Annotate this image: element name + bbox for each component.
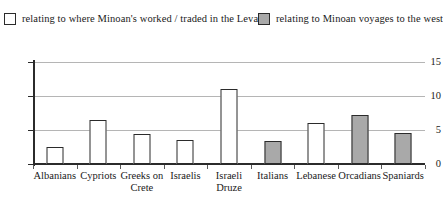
x-tick: [77, 165, 78, 169]
chart-legend: relating to where Minoan's worked / trad…: [0, 13, 441, 35]
bars-layer: [33, 62, 425, 164]
bar[interactable]: [220, 89, 237, 164]
bar[interactable]: [90, 120, 107, 164]
bar-slot: [33, 62, 77, 164]
x-tick: [251, 165, 252, 169]
bar[interactable]: [395, 133, 412, 164]
x-tick: [381, 165, 382, 169]
x-axis-label-line: Spaniards: [375, 170, 431, 182]
bar-slot: [294, 62, 338, 164]
legend-entry-west: relating to Minoan voyages to the west: [258, 13, 443, 25]
bar-slot: [120, 62, 164, 164]
bar[interactable]: [264, 141, 281, 164]
bar-slot: [338, 62, 382, 164]
bar-slot: [381, 62, 425, 164]
bar[interactable]: [308, 123, 325, 164]
legend-label-levant: relating to where Minoan's worked / trad…: [22, 13, 267, 25]
legend-swatch-gray-icon: [258, 13, 270, 25]
bar[interactable]: [177, 140, 194, 164]
bar-slot: [164, 62, 208, 164]
x-tick: [120, 165, 121, 169]
x-tick: [207, 165, 208, 169]
x-tick: [425, 165, 426, 169]
x-axis-label-line: Druze: [201, 182, 257, 194]
x-tick: [164, 165, 165, 169]
bar-slot: [77, 62, 121, 164]
x-axis-labels: AlbaniansCypriotsGreeks onCreteIsraelisI…: [33, 170, 425, 204]
bar[interactable]: [46, 147, 63, 164]
x-tick: [338, 165, 339, 169]
bar-slot: [207, 62, 251, 164]
bar-slot: [251, 62, 295, 164]
bar[interactable]: [351, 115, 368, 164]
x-axis-label: Spaniards: [375, 170, 431, 182]
legend-entry-levant: relating to where Minoan's worked / trad…: [4, 13, 267, 25]
legend-label-west: relating to Minoan voyages to the west: [276, 13, 443, 25]
legend-swatch-white-icon: [4, 13, 16, 25]
x-tick: [294, 165, 295, 169]
x-axis-label-line: Crete: [114, 182, 170, 194]
bar[interactable]: [133, 134, 150, 164]
x-tick: [33, 165, 34, 169]
